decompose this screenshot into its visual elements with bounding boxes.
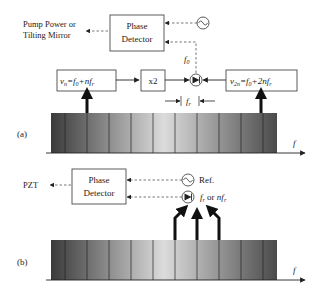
phase-detector-b-label-2: Detector [84, 188, 115, 198]
pzt-label: PZT [23, 180, 39, 190]
beat-label: fr or nfr [200, 192, 227, 203]
panel-label-b: (b) [17, 257, 28, 267]
phase-detector-b-label-1: Phase [89, 175, 110, 185]
fr-label: fr [186, 96, 192, 107]
comb-spectrum-b [51, 240, 277, 280]
ref-label: Ref. [199, 175, 214, 185]
comb-arrow-left [175, 209, 184, 240]
f0-label: f0 [184, 54, 190, 65]
panel-a: Pump Power or Tilting Mirror Phase Detec… [17, 15, 305, 153]
comb-arrow-right [210, 209, 219, 240]
panel-b: PZT Phase Detector Ref. fr or nfr [17, 169, 305, 280]
output-label-line2: Tilting Mirror [23, 30, 71, 40]
axis-label-a: f [293, 138, 297, 148]
doubler-label: x2 [149, 76, 158, 86]
frequency-comb-stabilization-diagram: Pump Power or Tilting Mirror Phase Detec… [0, 0, 317, 296]
f0-signal-path [165, 42, 196, 73]
panel-label-a: (a) [17, 129, 27, 139]
comb-spectrum-a [51, 113, 277, 153]
axis-label-b: f [293, 265, 297, 275]
output-label-line1: Pump Power or [23, 19, 76, 29]
phase-detector-label-1: Phase [127, 21, 148, 31]
phase-detector-label-2: Detector [122, 34, 153, 44]
